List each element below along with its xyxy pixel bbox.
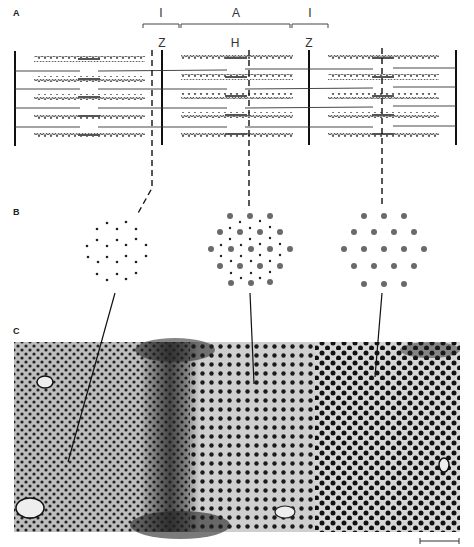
cross-section-thick bbox=[341, 213, 427, 287]
figure-graphics bbox=[0, 0, 474, 547]
sarcomere-middle bbox=[181, 55, 293, 137]
thick-filaments bbox=[34, 55, 439, 138]
cross-section-thin bbox=[86, 221, 148, 282]
electron-micrograph bbox=[14, 338, 460, 539]
band-brackets bbox=[143, 24, 328, 28]
cross-section-overlap bbox=[208, 213, 293, 286]
sarcomere-left bbox=[34, 56, 145, 138]
scale-bar bbox=[420, 538, 459, 544]
sarcomere-right bbox=[328, 55, 439, 137]
